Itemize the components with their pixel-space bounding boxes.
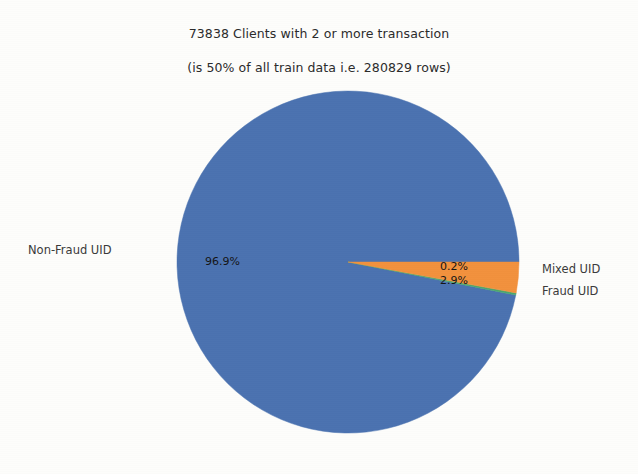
slice-label-fraud-uid: Fraud UID (542, 284, 598, 298)
pie-chart-figure: 73838 Clients with 2 or more transaction… (0, 0, 638, 474)
percent-label-fraud-uid: 2.9% (440, 274, 468, 287)
pie-svg (0, 0, 638, 474)
slice-label-mixed-uid: Mixed UID (542, 262, 600, 276)
slice-label-non-fraud-uid: Non-Fraud UID (28, 243, 112, 257)
percent-label-mixed-uid: 0.2% (440, 260, 468, 273)
percent-label-non-fraud-uid: 96.9% (205, 255, 240, 268)
